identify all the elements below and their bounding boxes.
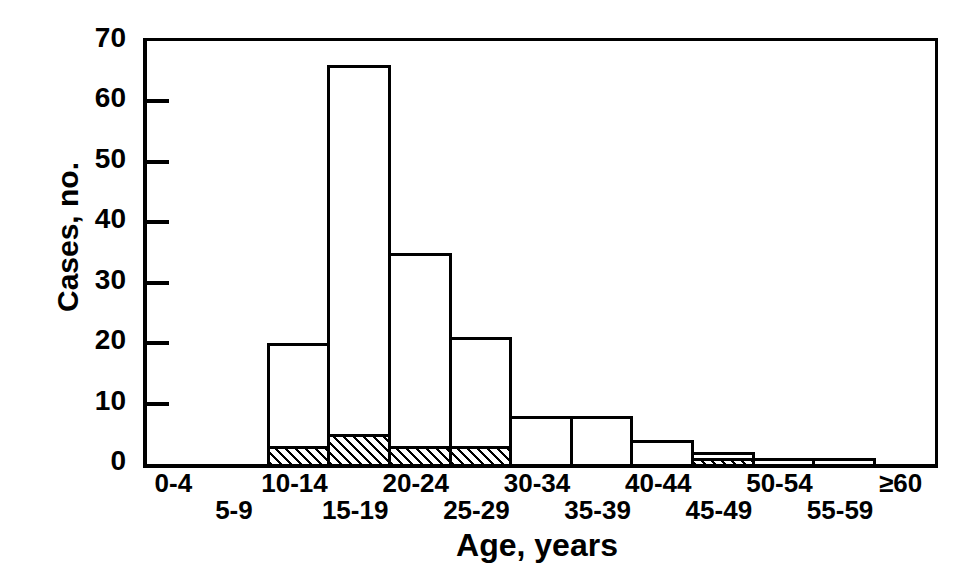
y-axis-tick <box>147 160 169 164</box>
x-tick-label: 5-9 <box>215 497 253 523</box>
x-tick-label: 15-19 <box>322 497 389 523</box>
y-tick-label: 50 <box>70 145 126 173</box>
y-axis-tick-labels: 010203040506070 <box>66 0 126 583</box>
y-tick-label: 30 <box>70 266 126 294</box>
x-tick-label: 20-24 <box>383 470 450 496</box>
y-tick-label: 0 <box>70 447 126 475</box>
histogram-bar <box>812 458 876 464</box>
y-tick-label: 20 <box>70 326 126 354</box>
histogram-figure: Cases, no. 010203040506070 0-45-910-1415… <box>0 0 974 583</box>
histogram-bar <box>449 337 513 464</box>
histogram-bar-hatched-subset <box>270 446 328 464</box>
y-tick-label: 70 <box>70 24 126 52</box>
y-axis-tick <box>147 220 169 224</box>
y-axis-tick <box>147 402 169 406</box>
histogram-bar <box>630 440 694 464</box>
x-tick-label: 30-34 <box>504 470 571 496</box>
x-tick-label: 10-14 <box>261 470 328 496</box>
histogram-bar <box>752 458 816 464</box>
x-tick-label: 0-4 <box>155 470 193 496</box>
x-tick-label: 25-29 <box>443 497 510 523</box>
histogram-bar <box>267 343 331 464</box>
y-tick-label: 40 <box>70 205 126 233</box>
x-axis-title: Age, years <box>143 527 931 564</box>
histogram-bar-hatched-subset <box>694 458 752 464</box>
histogram-bar <box>691 452 755 464</box>
x-tick-label: ≥60 <box>879 470 922 496</box>
x-tick-label: 45-49 <box>686 497 753 523</box>
histogram-bar-hatched-subset <box>452 446 510 464</box>
histogram-bar <box>388 253 452 465</box>
y-axis-tick <box>147 99 169 103</box>
y-tick-label: 60 <box>70 84 126 112</box>
x-tick-label: 35-39 <box>564 497 631 523</box>
x-tick-label: 40-44 <box>625 470 692 496</box>
plot-inner <box>147 41 935 464</box>
histogram-bar <box>570 416 634 464</box>
histogram-bar-hatched-subset <box>330 434 388 464</box>
y-axis-tick <box>147 341 169 345</box>
y-tick-label: 10 <box>70 387 126 415</box>
histogram-bar-hatched-subset <box>391 446 449 464</box>
plot-area <box>143 38 938 468</box>
x-tick-label: 55-59 <box>807 497 874 523</box>
x-tick-label: 50-54 <box>746 470 813 496</box>
y-axis-tick <box>147 281 169 285</box>
histogram-bar <box>509 416 573 464</box>
histogram-bar <box>327 65 391 464</box>
